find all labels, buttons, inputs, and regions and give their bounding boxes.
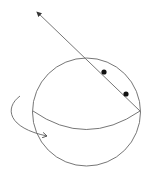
- rotation-arrow-icon: [11, 96, 47, 136]
- sphere-diagram: [0, 0, 155, 179]
- point-marker: [123, 91, 128, 96]
- diagram-canvas: [0, 0, 155, 179]
- point-marker: [101, 69, 106, 74]
- sphere-outline: [33, 58, 141, 166]
- equator-arc: [33, 111, 140, 130]
